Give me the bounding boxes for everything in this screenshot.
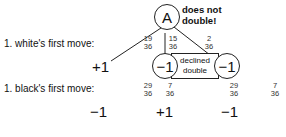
black-branch-1-probability: 29 36	[141, 82, 155, 98]
black-branch-4-probability: 7 36	[268, 82, 282, 98]
black-branch-3-probability: 29 36	[227, 82, 241, 98]
white-branch-3-probability: 2 36	[202, 35, 216, 51]
white-outcome-minus-one-right: −1	[214, 53, 240, 79]
black-outcome-3: −1	[221, 103, 238, 120]
declined-double-box: declined double	[171, 53, 219, 79]
tree-edges	[0, 0, 286, 137]
root-node-a: A	[154, 4, 180, 30]
white-branch-1-probability: 19 36	[141, 35, 155, 51]
white-branch-2-probability: 15 36	[166, 35, 180, 51]
black-outcome-1: −1	[90, 103, 107, 120]
black-branch-2-probability: 7 36	[163, 82, 177, 98]
black-outcome-2: +1	[156, 103, 173, 120]
white-outcome-minus-one-left: −1	[152, 53, 178, 79]
black-move-label: 1. black's first move:	[4, 83, 94, 94]
white-move-label: 1. white's first move:	[4, 38, 94, 49]
does-not-double-note: does not double!	[182, 4, 222, 26]
white-outcome-plus-one: +1	[92, 58, 109, 75]
root-node-label: A	[162, 9, 172, 26]
